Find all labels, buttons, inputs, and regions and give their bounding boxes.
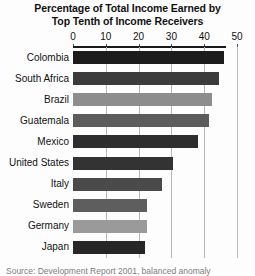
- bar-row: [73, 131, 237, 152]
- x-tick-label-0: 0: [70, 31, 76, 42]
- bar-row: [73, 89, 237, 110]
- bar-row: [73, 47, 237, 68]
- category-label-guatemala: Guatemala: [0, 115, 69, 127]
- bar-row: [73, 110, 237, 131]
- bar-germany: [73, 220, 147, 233]
- x-axis-ticks: 01020304050: [73, 31, 237, 47]
- bar-row: [73, 68, 237, 89]
- category-label-japan: Japan: [0, 241, 69, 253]
- bar-row: [73, 195, 237, 216]
- category-label-colombia: Colombia: [0, 52, 69, 64]
- category-label-brazil: Brazil: [0, 94, 69, 106]
- bar-sweden: [73, 199, 147, 212]
- x-tick-label-40: 40: [199, 31, 210, 42]
- y-axis-category-labels: ColombiaSouth AfricaBrazilGuatemalaMexic…: [0, 47, 69, 258]
- category-label-south-africa: South Africa: [0, 73, 69, 85]
- bar-italy: [73, 178, 162, 191]
- bar-colombia: [73, 51, 224, 64]
- plot-area: [73, 47, 237, 258]
- chart-title: Percentage of Total Income Earned by Top…: [0, 2, 255, 28]
- category-label-sweden: Sweden: [0, 199, 69, 211]
- bar-row: [73, 153, 237, 174]
- gridline-50: [237, 47, 238, 258]
- category-label-mexico: Mexico: [0, 136, 69, 148]
- chart-title-line-2: Top Tenth of Income Receivers: [0, 15, 255, 28]
- bar-mexico: [73, 135, 198, 148]
- category-label-germany: Germany: [0, 220, 69, 232]
- x-tick-label-10: 10: [100, 31, 111, 42]
- category-label-united-states: United States: [0, 157, 69, 169]
- bar-row: [73, 216, 237, 237]
- bar-south-africa: [73, 72, 219, 85]
- bar-row: [73, 174, 237, 195]
- bar-brazil: [73, 93, 212, 106]
- source-note: Source: Development Report 2001, balance…: [6, 266, 255, 276]
- bar-united-states: [73, 157, 173, 170]
- bar-row: [73, 237, 237, 258]
- bar-japan: [73, 241, 145, 254]
- x-tick-label-30: 30: [166, 31, 177, 42]
- x-tick-label-20: 20: [133, 31, 144, 42]
- bar-guatemala: [73, 114, 209, 127]
- category-label-italy: Italy: [0, 178, 69, 190]
- chart-title-line-1: Percentage of Total Income Earned by: [0, 2, 255, 15]
- bar-rows: [73, 47, 237, 258]
- x-tick-label-50: 50: [231, 31, 242, 42]
